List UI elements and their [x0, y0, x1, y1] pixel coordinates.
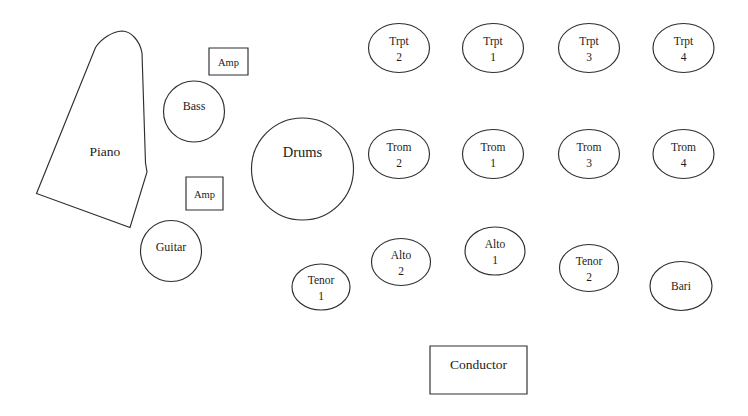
saxophone-seat[interactable]: Bari [650, 262, 712, 311]
trombone-seat-part: Trom [671, 141, 696, 153]
saxophone-seat-part: Tenor [308, 274, 335, 286]
trumpet-seat-part: Trpt [674, 35, 694, 48]
trumpet-seat-shape [463, 24, 524, 73]
saxophone-seat-shape [465, 227, 525, 275]
trumpet-seat[interactable]: Trpt 3 [559, 24, 620, 73]
trombone-seat[interactable]: Trom 1 [463, 130, 524, 179]
trombone-seat-part: Trom [386, 141, 411, 153]
saxophone-seat-number: 2 [398, 265, 404, 277]
trumpet-seat-part: Trpt [483, 35, 503, 48]
trombone-seat-number: 1 [490, 157, 496, 169]
saxophone-seat-number: 1 [492, 254, 498, 266]
trombone-seat-number: 4 [681, 157, 687, 169]
trumpet-seat-shape [369, 24, 430, 73]
piano-label: Piano [90, 144, 121, 159]
trombone-seat[interactable]: Trom 2 [369, 130, 430, 179]
drums-shape [252, 118, 354, 220]
saxophone-seat[interactable]: Tenor 1 [292, 264, 350, 310]
amp-bottom-node[interactable]: Amp [186, 177, 223, 210]
trumpet-seat-part: Trpt [579, 35, 599, 48]
drums-node[interactable]: Drums [252, 118, 354, 220]
trumpet-seat-number: 1 [490, 51, 496, 63]
saxophone-seat-part: Alto [485, 238, 506, 250]
bass-node[interactable]: Bass [164, 81, 225, 142]
trumpet-seat-shape [653, 24, 714, 73]
amp-top-node[interactable]: Amp [209, 48, 248, 75]
guitar-label: Guitar [156, 240, 187, 254]
saxophone-seat[interactable]: Tenor 2 [560, 245, 619, 292]
saxophone-seat[interactable]: Alto 2 [372, 239, 431, 286]
saxophone-seat-number: 2 [586, 271, 592, 283]
trumpet-seat[interactable]: Trpt 4 [653, 24, 714, 73]
trumpet-seat[interactable]: Trpt 2 [369, 24, 430, 73]
saxophone-row: Tenor 1 Alto 2 Alto 1 Tenor 2 Bari [292, 227, 712, 311]
seating-chart-svg: Piano Amp Bass Amp Guitar Drums [0, 0, 748, 416]
saxophone-seat-part: Tenor [576, 255, 603, 267]
saxophone-seat-part: Bari [671, 280, 691, 292]
trombone-seat-shape [559, 130, 620, 179]
conductor-label: Conductor [450, 357, 507, 372]
saxophone-seat-number: 1 [318, 290, 324, 302]
trombone-seat-shape [369, 130, 430, 179]
guitar-node[interactable]: Guitar [141, 221, 202, 282]
trombone-seat-shape [463, 130, 524, 179]
trombone-row: Trom 2 Trom 1 Trom 3 Trom 4 [369, 130, 715, 179]
trombone-seat-number: 2 [396, 157, 402, 169]
saxophone-seat-shape [560, 245, 619, 292]
trumpet-seat-part: Trpt [389, 35, 409, 48]
trombone-seat-shape [653, 130, 714, 179]
trumpet-seat[interactable]: Trpt 1 [463, 24, 524, 73]
bass-label: Bass [183, 99, 206, 113]
trombone-seat-part: Trom [480, 141, 505, 153]
conductor-node[interactable]: Conductor [430, 346, 527, 394]
saxophone-seat[interactable]: Alto 1 [465, 227, 525, 275]
amp-top-label: Amp [218, 57, 239, 68]
drums-label: Drums [283, 144, 323, 160]
trombone-seat[interactable]: Trom 3 [559, 130, 620, 179]
trombone-seat-part: Trom [576, 141, 601, 153]
piano-shape [37, 31, 148, 228]
seating-chart-canvas: Piano Amp Bass Amp Guitar Drums [0, 0, 748, 416]
amp-bottom-label: Amp [194, 189, 215, 200]
piano-node[interactable]: Piano [37, 31, 148, 228]
trombone-seat[interactable]: Trom 4 [653, 130, 714, 179]
trumpet-seat-number: 3 [586, 51, 592, 63]
trumpet-seat-number: 2 [396, 51, 402, 63]
trumpet-seat-shape [559, 24, 620, 73]
saxophone-seat-part: Alto [391, 249, 412, 261]
trumpet-row: Trpt 2 Trpt 1 Trpt 3 Trpt 4 [369, 24, 715, 73]
trumpet-seat-number: 4 [681, 51, 687, 63]
trombone-seat-number: 3 [586, 157, 592, 169]
saxophone-seat-shape [372, 239, 431, 286]
saxophone-seat-shape [292, 264, 350, 310]
